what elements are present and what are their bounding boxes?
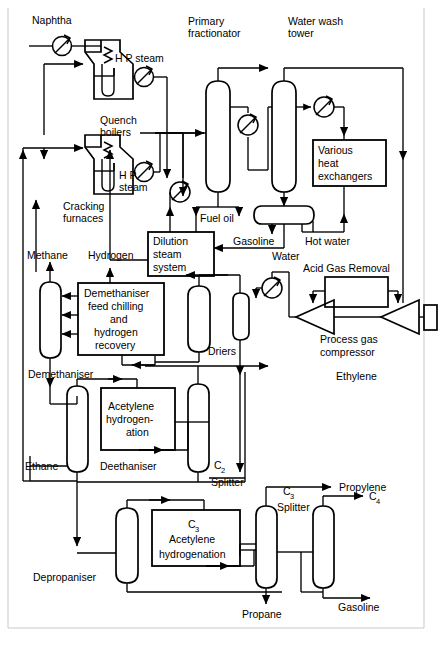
- label-hot-water: Hot water: [305, 235, 350, 247]
- label-water-wash-tower-line1: Water wash: [288, 15, 343, 27]
- label-water-mid: Water: [272, 250, 300, 262]
- label-propylene: Propylene: [339, 481, 386, 493]
- label-demeth-chill-line2: feed chilling: [88, 300, 144, 312]
- label-acetylene-hydro-line3: ation: [126, 426, 149, 438]
- label-dilution-steam-line1: Dilution: [153, 235, 188, 247]
- pfd-canvas: Naphtha H P steam H P steam Quench boile…: [0, 0, 441, 645]
- label-hp-steam-2-line2: steam: [119, 181, 148, 193]
- label-acetylene-hydro-line2: hydrogen-: [106, 413, 154, 425]
- svg-text:2: 2: [221, 466, 225, 475]
- label-hydrogen: Hydrogen: [88, 249, 134, 261]
- label-propane: Propane: [242, 608, 282, 620]
- label-gasoline-top: Gasoline: [233, 235, 275, 247]
- label-demeth-chill-line5: recovery: [95, 339, 136, 351]
- label-ethane: Ethane: [25, 460, 58, 472]
- label-process-gas-compressor-line2: compressor: [320, 346, 375, 358]
- label-acid-gas-removal: Acid Gas Removal: [303, 262, 390, 274]
- label-dilution-steam-line3: system: [153, 261, 187, 273]
- label-quench-boilers-line2: boilers: [100, 126, 131, 138]
- label-ethylene: Ethylene: [336, 370, 377, 382]
- label-primary-fractionator-line1: Primary: [188, 15, 225, 27]
- label-naphtha: Naphtha: [32, 14, 72, 26]
- label-hp-steam-1: H P steam: [115, 52, 164, 64]
- process-flow-diagram: Naphtha H P steam H P steam Quench boile…: [0, 0, 441, 645]
- label-demethaniser: Demethaniser: [28, 368, 94, 380]
- label-deethaniser: Deethaniser: [100, 460, 157, 472]
- label-demeth-chill-line3: and: [110, 313, 128, 325]
- svg-text:Acetylene: Acetylene: [169, 533, 215, 545]
- label-quench-boilers-line1: Quench: [100, 114, 137, 126]
- svg-text:3: 3: [290, 492, 294, 501]
- svg-text:4: 4: [376, 497, 380, 506]
- label-fuel-oil: Fuel oil: [200, 212, 234, 224]
- label-methane: Methane: [27, 249, 68, 261]
- label-gasoline-bottom: Gasoline: [338, 601, 380, 613]
- label-demeth-chill-line4: hydrogen: [94, 326, 138, 338]
- svg-text:hydrogenation: hydrogenation: [159, 548, 226, 560]
- svg-text:Splitter: Splitter: [211, 476, 244, 488]
- label-dilution-steam-line2: steam: [153, 248, 182, 260]
- label-demeth-chill-line1: Demethaniser: [84, 287, 150, 299]
- label-primary-fractionator-line2: fractionator: [188, 27, 241, 39]
- label-water-wash-tower-line2: tower: [288, 27, 314, 39]
- label-cracking-furnaces-line2: furnaces: [63, 212, 103, 224]
- label-hp-steam-2-line1: H P: [119, 169, 137, 181]
- label-driers: Driers: [208, 345, 236, 357]
- label-various-heat-exchangers-line2: heat: [318, 157, 339, 169]
- label-various-heat-exchangers-line3: exchangers: [318, 170, 372, 182]
- label-cracking-furnaces-line1: Cracking: [63, 200, 105, 212]
- label-depropaniser: Depropaniser: [33, 571, 97, 583]
- label-acetylene-hydro-line1: Acetylene: [108, 400, 154, 412]
- svg-text:Splitter: Splitter: [277, 501, 310, 513]
- label-process-gas-compressor-line1: Process gas: [320, 333, 378, 345]
- label-various-heat-exchangers-line1: Various: [318, 144, 353, 156]
